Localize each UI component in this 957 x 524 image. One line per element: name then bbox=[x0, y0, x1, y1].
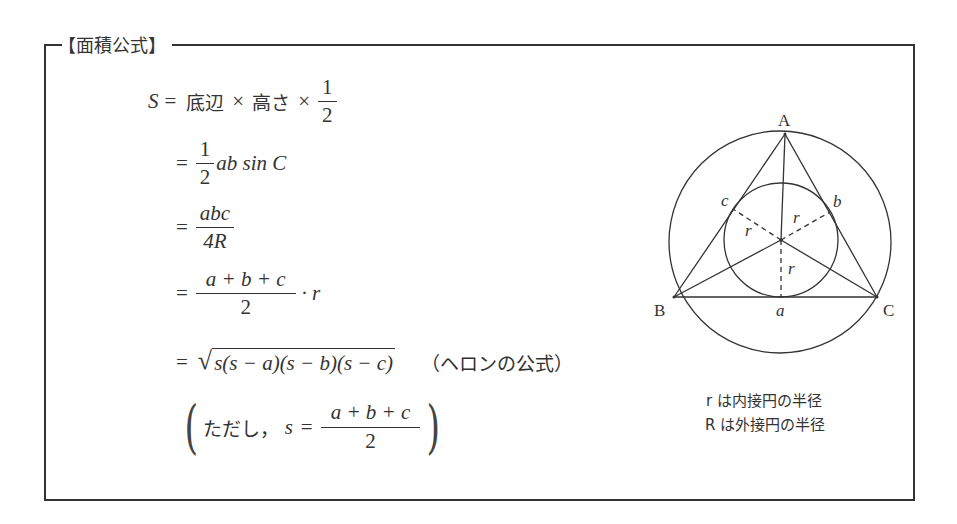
incenter-point bbox=[779, 238, 783, 242]
radius-to-side-c bbox=[733, 209, 781, 240]
circumradius-caption: R は外接円の半径 bbox=[705, 413, 825, 434]
triangle-diagram: A B C a b c r r r bbox=[0, 0, 957, 524]
side-label-b: b bbox=[833, 192, 842, 211]
inradius-label: r bbox=[788, 259, 795, 278]
triangle bbox=[674, 134, 877, 297]
vertex-label-c: C bbox=[883, 301, 894, 320]
segment-c-to-incenter bbox=[781, 240, 877, 297]
radius-to-side-b bbox=[781, 212, 830, 240]
vertex-label-a: A bbox=[778, 111, 791, 130]
inradius-caption: r は内接円の半径 bbox=[706, 389, 822, 410]
inradius-label: r bbox=[745, 221, 752, 240]
vertex-label-b: B bbox=[654, 301, 665, 320]
segment-b-to-incenter bbox=[674, 240, 781, 297]
segment-a-to-incenter bbox=[781, 134, 785, 240]
side-label-c: c bbox=[721, 191, 729, 210]
side-label-a: a bbox=[776, 301, 785, 320]
inradius-label: r bbox=[793, 208, 800, 227]
